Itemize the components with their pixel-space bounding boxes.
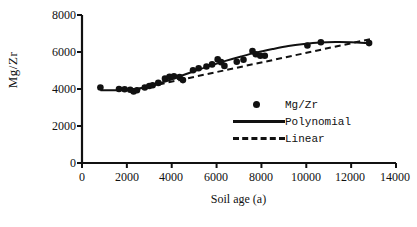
legend-label: Linear xyxy=(285,133,325,145)
chart-figure: Mg/Zr 8000 6000 4000 2000 0 0 2000 4000 … xyxy=(0,0,417,227)
legend-label: Polynomial xyxy=(285,116,351,128)
polynomial-fit-line xyxy=(100,42,369,90)
legend-dashed-line-icon xyxy=(233,130,285,147)
data-series-layer xyxy=(97,39,372,95)
legend-solid-line-icon xyxy=(233,113,285,130)
data-point xyxy=(221,63,228,70)
legend-item-scatter: Mg/Zr xyxy=(233,96,383,113)
data-point xyxy=(261,52,268,59)
legend-marker-dot-icon xyxy=(233,96,285,113)
linear-fit-line xyxy=(139,39,372,89)
legend-item-polynomial: Polynomial xyxy=(233,113,383,130)
data-point xyxy=(233,59,240,66)
legend-item-linear: Linear xyxy=(233,130,383,147)
legend: Mg/Zr Polynomial Linear xyxy=(233,96,383,147)
legend-label: Mg/Zr xyxy=(285,99,318,111)
